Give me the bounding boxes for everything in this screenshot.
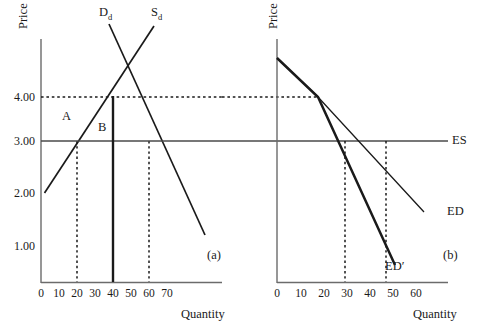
excess-supply-label-es: ES (452, 134, 467, 147)
panel-a-xtick-60: 60 (139, 288, 159, 300)
panel-a-xtick-0: 0 (31, 288, 51, 300)
panel-b-xtick-0: 0 (267, 288, 287, 300)
panel-b-excess-demand-curve (277, 58, 424, 212)
panel-b-xtick-60: 60 (406, 288, 426, 300)
panel-b-group (277, 39, 448, 283)
panel-a-ytick-1: 1.00 (2, 240, 35, 252)
region-label-b: B (98, 121, 106, 134)
panel-a-supply-curve (45, 26, 155, 193)
figure-canvas (0, 0, 481, 329)
panel-b-y-axis-title: Price (267, 3, 280, 29)
supply-curve-label-sd: Sd (151, 6, 162, 21)
panel-a-xtick-70: 70 (157, 288, 177, 300)
panel-a-ytick-4: 4.00 (2, 91, 35, 103)
panel-a-xtick-10: 10 (49, 288, 69, 300)
panel-b-xtick-30: 30 (337, 288, 357, 300)
panel-a-label: (a) (207, 249, 221, 262)
demand-curve-label-dd: Dd (99, 6, 112, 21)
region-label-a: A (62, 110, 71, 123)
panel-b-xtick-40: 40 (360, 288, 380, 300)
panel-a-x-axis-title: Quantity (181, 308, 225, 321)
panel-a-ytick-3: 3.00 (2, 135, 35, 147)
excess-demand-shifted-label-ed-prime: ED′ (385, 260, 404, 273)
panel-b-xtick-50: 50 (383, 288, 403, 300)
panel-b-xtick-20: 20 (314, 288, 334, 300)
panel-a-xtick-40: 40 (103, 288, 123, 300)
economics-figure: Price 4.00 3.00 2.00 1.00 0 10 20 30 40 … (0, 0, 481, 329)
panel-a-group (41, 24, 222, 283)
panel-a-y-axis-title: Price (17, 3, 30, 29)
panel-b-label: (b) (443, 249, 458, 262)
panel-a-xtick-50: 50 (121, 288, 141, 300)
panel-b-xtick-10: 10 (291, 288, 311, 300)
panel-b-x-axis-title: Quantity (413, 308, 457, 321)
panel-a-xtick-30: 30 (85, 288, 105, 300)
panel-a-xtick-20: 20 (67, 288, 87, 300)
excess-demand-label-ed: ED (447, 205, 464, 218)
panel-a-ytick-2: 2.00 (2, 187, 35, 199)
panel-a-demand-curve (109, 24, 205, 235)
